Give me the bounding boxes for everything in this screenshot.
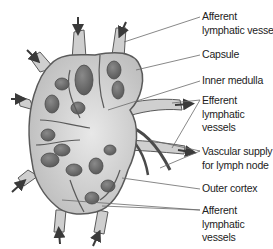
- label-capsule: Capsule: [202, 48, 239, 62]
- label-inner-medulla: Inner medulla: [202, 74, 263, 88]
- label-efferent-lymphatic-vessels: Efferent lymphatic vessels: [202, 94, 245, 135]
- label-line: Inner medulla: [202, 74, 263, 88]
- label-afferent-lymphatic-vessels-bottom: Afferent lymphatic vessels: [202, 204, 245, 245]
- label-line: Vascular supply: [202, 145, 272, 159]
- label-line: for lymph node: [202, 159, 272, 173]
- label-line: lymphatic vessel: [202, 24, 273, 38]
- label-line: Outer cortex: [202, 182, 257, 196]
- label-line: lymphatic: [202, 108, 245, 122]
- label-outer-cortex: Outer cortex: [202, 182, 257, 196]
- label-line: vessels: [202, 231, 245, 245]
- label-vascular-supply: Vascular supply for lymph node: [202, 145, 272, 172]
- label-line: Efferent: [202, 94, 245, 108]
- label-line: vessels: [202, 121, 245, 135]
- label-line: lymphatic: [202, 218, 245, 232]
- label-afferent-lymphatic-vessel: Afferent lymphatic vessel: [202, 10, 273, 37]
- label-line: Afferent: [202, 204, 245, 218]
- label-line: Capsule: [202, 48, 239, 62]
- label-line: Afferent: [202, 10, 273, 24]
